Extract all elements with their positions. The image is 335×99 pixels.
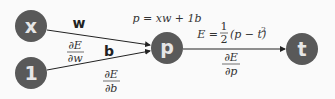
loss-equation: E = 1 2 (p − t) 2 [196,20,266,46]
node-p-label: p [160,36,174,58]
node-x-label: x [25,15,37,37]
edge-x-to-p [47,30,150,45]
gradient-dE-dw: ∂E ∂w [67,39,84,65]
node-1-label: 1 [24,62,37,84]
node-x: x [15,10,47,42]
weight-b-label: b [104,43,114,59]
grad-b-numerator: ∂E [104,68,118,81]
loss-exponent: 2 [261,25,266,34]
grad-w-numerator: ∂E [68,39,82,52]
grad-b-denominator: ∂b [105,82,118,95]
grad-p-denominator: ∂p [225,65,238,78]
gradient-dE-db: ∂E ∂b [103,68,120,95]
node-1: 1 [15,57,47,89]
computation-graph: x 1 p t w ∂E ∂w b ∂E ∂b p = xw + 1b E = … [0,0,335,99]
loss-lhs: E = [196,28,218,41]
node-t: t [286,33,318,65]
node-p: p [151,32,183,64]
p-definition: p = xw + 1b [132,12,201,25]
weight-w-label: w [73,15,86,31]
grad-p-numerator: ∂E [224,51,238,64]
loss-half-numerator: 1 [221,20,228,33]
node-t-label: t [297,38,306,60]
loss-half-denominator: 2 [221,33,228,46]
gradient-dE-dp: ∂E ∂p [222,51,240,78]
edge-1-to-p [47,51,150,70]
grad-w-denominator: ∂w [67,52,83,65]
